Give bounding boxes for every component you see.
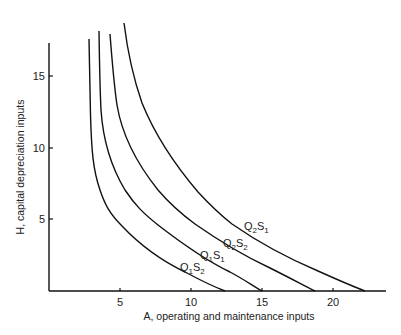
label-q1s2: Q1S2 — [180, 261, 205, 276]
y-ticks: 5 10 15 — [33, 70, 53, 225]
x-tick-label: 10 — [185, 296, 197, 308]
isoquant-chart: 5 10 15 20 5 10 15 A, operating and main… — [0, 0, 401, 335]
y-tick-label: 15 — [33, 70, 45, 82]
curve-q1s1 — [99, 31, 262, 291]
y-tick-label: 5 — [39, 213, 45, 225]
label-q2s2: Q2S2 — [223, 237, 248, 252]
y-tick-label: 10 — [33, 142, 45, 154]
x-axis-title: A, operating and maintenance inputs — [143, 310, 314, 322]
x-tick-label: 15 — [256, 296, 268, 308]
x-tick-label: 5 — [117, 296, 123, 308]
x-tick-label: 20 — [327, 296, 339, 308]
label-q1s1: Q1S1 — [200, 249, 225, 264]
label-q2s1: Q2S1 — [244, 220, 269, 235]
y-axis-title: H, capital depreciation inputs — [14, 100, 26, 235]
